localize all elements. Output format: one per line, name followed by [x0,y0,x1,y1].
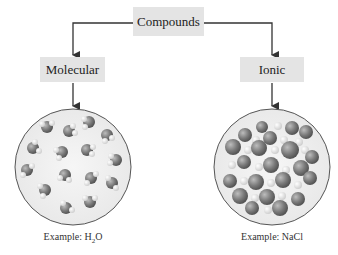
molecular-illustration [15,109,131,225]
molecular-example-caption: Example: H2O [23,231,123,245]
ionic-example-caption: Example: NaCl [222,231,322,242]
molecular-node: Molecular [40,57,105,82]
ionic-node: Ionic [240,57,304,82]
compounds-node: Compounds [133,7,204,36]
diagram-canvas [0,0,338,255]
ionic-illustration [214,109,330,225]
